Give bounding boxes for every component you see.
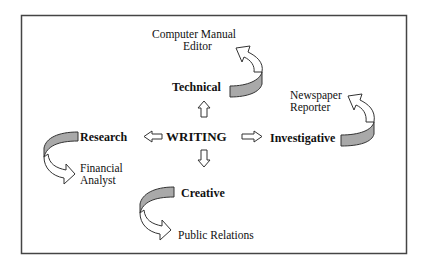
branch-investigative-career-line2: Reporter <box>290 101 330 114</box>
branch-creative-label: Creative <box>181 186 225 200</box>
branch-research-career-line1: Financial <box>80 162 123 174</box>
writing-careers-diagram: WRITING Technical Computer Manual Editor… <box>0 0 426 271</box>
center-label: WRITING <box>166 129 227 144</box>
branch-creative-career-line1: Public Relations <box>178 229 254 241</box>
branch-research-label: Research <box>80 130 127 144</box>
branch-technical-career-line2: Editor <box>183 40 212 52</box>
branch-research-career-line2: Analyst <box>80 174 117 187</box>
branch-technical-label: Technical <box>172 80 222 94</box>
branch-investigative-label: Investigative <box>270 131 336 145</box>
